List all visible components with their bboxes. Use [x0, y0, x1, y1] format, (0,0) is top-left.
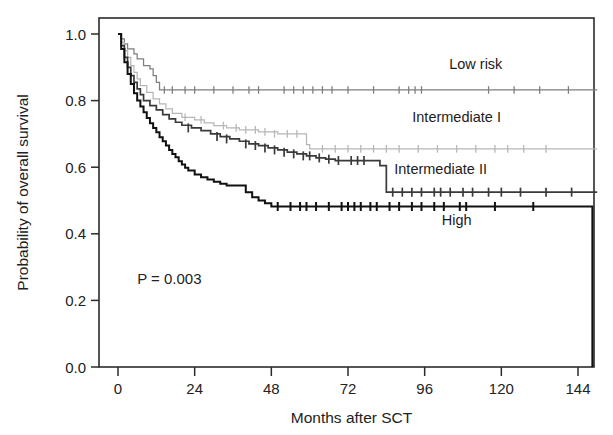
x-tick-label: 72 — [340, 380, 357, 397]
y-axis-title: Probability of overall survival — [14, 94, 31, 290]
survival-chart: 0.00.20.40.60.81.0 024487296120144 Low r… — [0, 0, 613, 435]
x-axis-title: Months after SCT — [291, 409, 413, 426]
series-label-intermediate-ii: Intermediate II — [394, 161, 487, 177]
x-tick-label: 144 — [565, 380, 590, 397]
series-label-intermediate-i: Intermediate I — [412, 109, 501, 125]
pvalue-annotation: P = 0.003 — [137, 270, 201, 287]
x-tick-label: 96 — [416, 380, 433, 397]
y-tick-label: 0.0 — [65, 359, 86, 376]
x-tick-label: 120 — [489, 380, 514, 397]
y-tick-label: 0.4 — [65, 225, 86, 242]
y-tick-label: 0.8 — [65, 92, 86, 109]
chart-background — [0, 0, 613, 435]
y-tick-label: 0.2 — [65, 292, 86, 309]
x-tick-label: 48 — [263, 380, 280, 397]
x-tick-label: 24 — [186, 380, 203, 397]
x-tick-label: 0 — [114, 380, 122, 397]
y-tick-label: 1.0 — [65, 26, 86, 43]
series-label-high: High — [442, 212, 472, 228]
y-tick-label: 0.6 — [65, 159, 86, 176]
series-label-low-risk: Low risk — [449, 56, 503, 72]
